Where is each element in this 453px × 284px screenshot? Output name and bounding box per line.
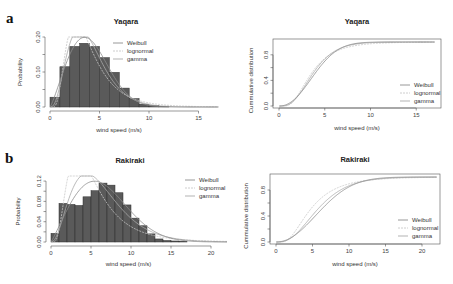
- x-tick-label: 20: [208, 250, 215, 256]
- legend-item-lognormal: lognormal: [127, 48, 153, 54]
- y-tick-label: 0.00: [36, 236, 42, 248]
- y-axis-label: Probability: [17, 58, 23, 86]
- legend-item-gamma: gamma: [412, 233, 433, 239]
- x-tick-label: 20: [419, 248, 426, 254]
- x-tick-label: 0: [49, 250, 53, 256]
- histogram-bar: [75, 205, 83, 242]
- x-tick-label: 5: [89, 250, 93, 256]
- y-tick-label: 0.12: [36, 175, 42, 187]
- legend-item-lognormal: lognormal: [414, 90, 440, 96]
- x-tick-label: 5: [323, 112, 327, 118]
- y-tick-label: 0.4: [260, 211, 266, 220]
- legend: Weibulllognormalgamma: [398, 217, 438, 239]
- chart-title: Rakiraki: [115, 156, 144, 165]
- x-tick-label: 15: [413, 112, 420, 118]
- x-axis: 05101520wind speed (m/s): [49, 246, 215, 267]
- x-tick-label: 5: [311, 248, 315, 254]
- y-tick-label: 0.10: [35, 66, 41, 78]
- x-tick-label: 10: [128, 250, 135, 256]
- chart-b-histogram: Rakiraki05101520wind speed (m/s)0.000.04…: [15, 156, 227, 267]
- legend: Weibulllognormalgamma: [400, 82, 440, 104]
- chart-title: Yaqara: [345, 17, 370, 26]
- legend-item-lognormal: lognormal: [412, 225, 438, 231]
- x-axis: 05101520wind speed (m/s): [274, 244, 426, 267]
- y-axis: 0.00.40.8Cummulative distribution: [248, 48, 273, 114]
- histogram-bar: [100, 58, 110, 107]
- y-tick-label: 0.0: [260, 237, 266, 246]
- legend-item-weibull: Weibull: [127, 40, 147, 46]
- curve-gamma: [279, 42, 434, 106]
- x-tick-label: 0: [277, 112, 281, 118]
- chart-b-cdf: Rakiraki05101520wind speed (m/s)0.00.40.…: [243, 155, 440, 267]
- histogram-bar: [70, 46, 80, 107]
- histogram-bar: [91, 191, 99, 242]
- y-tick-label: 0.08: [36, 195, 42, 207]
- histogram-bar: [115, 193, 123, 242]
- panel-label-b: b: [5, 150, 13, 166]
- x-tick-label: 15: [195, 115, 202, 121]
- legend: Weibulllognormalgamma: [185, 177, 225, 199]
- histogram-bar: [60, 67, 70, 107]
- y-tick-label: 0.20: [35, 31, 41, 43]
- x-tick-label: 5: [98, 115, 102, 121]
- y-axis: 0.000.040.080.12Probability: [15, 175, 46, 248]
- histogram-bar: [107, 185, 115, 242]
- histogram-bar: [179, 241, 187, 242]
- legend-item-gamma: gamma: [127, 56, 148, 62]
- y-axis: 0.000.100.20Probability: [17, 31, 45, 113]
- x-axis-label: wind speed (m/s): [333, 125, 380, 131]
- chart-a-cdf: Yaqara051015wind speed (m/s)0.00.40.8Cum…: [248, 17, 441, 131]
- histogram-bar: [80, 43, 90, 107]
- x-tick-label: 15: [168, 250, 175, 256]
- y-tick-label: 0.4: [263, 76, 269, 85]
- histogram-bar: [171, 241, 179, 242]
- histogram-bar: [163, 240, 171, 242]
- panel-label-a: a: [6, 10, 14, 26]
- histogram-bar: [67, 204, 75, 242]
- histogram-bar: [139, 226, 147, 242]
- x-tick-label: 0: [274, 248, 278, 254]
- legend-item-weibull: Weibull: [414, 82, 434, 88]
- legend-item-gamma: gamma: [199, 193, 220, 199]
- curve-weibull: [279, 42, 434, 106]
- chart-a-histogram: Yaqara051015wind speed (m/s)0.000.100.20…: [17, 17, 218, 133]
- figure: a b Yaqara051015wind speed (m/s)0.000.10…: [0, 0, 453, 284]
- legend-item-weibull: Weibull: [412, 217, 432, 223]
- x-tick-label: 15: [382, 248, 389, 254]
- histogram-bar: [83, 197, 91, 242]
- y-axis-label: Cummulative distribution: [243, 183, 249, 249]
- x-tick-label: 10: [367, 112, 374, 118]
- chart-title: Rakiraki: [340, 155, 369, 164]
- curve-lognormal: [279, 42, 434, 106]
- x-tick-label: 10: [146, 115, 153, 121]
- y-tick-label: 0.8: [263, 50, 269, 59]
- legend-item-weibull: Weibull: [199, 177, 219, 183]
- y-tick-label: 0.0: [263, 101, 269, 110]
- x-axis-label: wind speed (m/s): [331, 261, 378, 267]
- legend-item-lognormal: lognormal: [199, 185, 225, 191]
- y-tick-label: 0.8: [260, 185, 266, 194]
- histogram-bar: [155, 239, 163, 242]
- legend-item-gamma: gamma: [414, 98, 435, 104]
- x-tick-label: 0: [48, 115, 52, 121]
- y-axis-label: Cummulative distribution: [248, 48, 254, 114]
- chart-title: Yaqara: [114, 17, 139, 26]
- y-axis: 0.00.40.8Cummulative distribution: [243, 183, 270, 249]
- legend: Weibulllognormalgamma: [113, 40, 153, 62]
- y-tick-label: 0.04: [36, 215, 42, 227]
- x-axis: 051015wind speed (m/s): [277, 108, 420, 131]
- x-axis-label: wind speed (m/s): [105, 261, 152, 267]
- x-tick-label: 10: [346, 248, 353, 254]
- x-axis-label: wind speed (m/s): [95, 127, 142, 133]
- x-axis: 051015wind speed (m/s): [48, 111, 202, 133]
- y-axis-label: Probability: [15, 198, 21, 226]
- y-tick-label: 0.00: [35, 101, 41, 113]
